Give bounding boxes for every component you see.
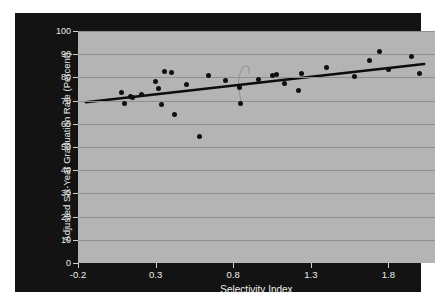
x-axis-tick-label: 1.8	[382, 269, 395, 280]
scatter-point	[324, 65, 329, 70]
scatter-point	[172, 112, 177, 117]
y-axis-tick-label: 40	[61, 165, 71, 175]
y-axis-tick-label: 10	[61, 235, 71, 245]
x-axis-title: Selectivity Index	[78, 284, 435, 295]
x-axis-tick-label: 0.3	[149, 269, 162, 280]
scatter-point	[417, 71, 422, 76]
gridline	[78, 193, 435, 194]
x-axis-tick	[233, 263, 234, 268]
y-axis-tick-label: 80	[61, 72, 71, 82]
gridline	[78, 170, 435, 171]
x-axis-tick-label: 1.3	[304, 269, 317, 280]
y-axis-tick-label: 50	[61, 142, 71, 152]
chart-screenshot: Adjusted Six-Year Graduation Rate (Perce…	[0, 0, 435, 305]
scatter-point	[206, 73, 211, 78]
x-axis-tick	[78, 263, 79, 268]
scatter-point	[256, 77, 261, 82]
scatter-point	[367, 58, 372, 63]
y-axis-tick-label: 30	[61, 188, 71, 198]
x-axis: Selectivity Index -0.20.30.81.31.8	[78, 263, 435, 305]
gridline	[78, 101, 435, 102]
x-axis-tick	[388, 263, 389, 268]
y-axis-tick-label: 60	[61, 119, 71, 129]
y-axis: 0102030405060708090100	[30, 31, 78, 263]
y-axis-tick-label: 90	[61, 49, 71, 59]
plot-area	[78, 31, 435, 263]
gridline	[78, 124, 435, 125]
x-axis-tick-label: -0.2	[70, 269, 86, 280]
figure-panel: Adjusted Six-Year Graduation Rate (Perce…	[15, 13, 421, 292]
y-axis-tick-label: 20	[61, 212, 71, 222]
gridline	[78, 31, 435, 32]
y-axis-tick-label: 0	[66, 258, 71, 268]
x-axis-tick	[311, 263, 312, 268]
y-axis-tick-label: 70	[61, 96, 71, 106]
scatter-point	[377, 49, 382, 54]
x-axis-tick-label: 0.8	[227, 269, 240, 280]
scatter-point	[237, 85, 242, 90]
gridline	[78, 217, 435, 218]
x-axis-tick	[156, 263, 157, 268]
gridline	[78, 240, 435, 241]
gridline	[78, 54, 435, 55]
gridline	[78, 147, 435, 148]
scatter-point	[197, 134, 202, 139]
y-axis-tick-label: 100	[56, 26, 71, 36]
scatter-point	[223, 78, 228, 83]
